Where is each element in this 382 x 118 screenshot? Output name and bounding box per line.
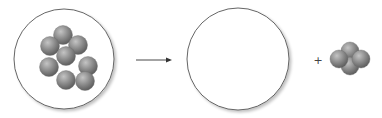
reaction-arrow xyxy=(136,58,172,63)
reaction-diagram: + xyxy=(0,0,382,118)
cluster-particle xyxy=(352,50,370,68)
product-cluster xyxy=(330,42,370,75)
particle xyxy=(76,72,95,91)
arrow-head-icon xyxy=(166,58,172,63)
particle xyxy=(57,47,76,66)
particle xyxy=(40,58,59,77)
cluster-particle xyxy=(330,50,348,68)
plus-operator: + xyxy=(313,54,322,67)
particle xyxy=(57,71,76,90)
left-container xyxy=(14,9,114,109)
right-container-circle xyxy=(187,8,289,110)
right-container xyxy=(187,8,289,110)
particle xyxy=(41,37,60,56)
